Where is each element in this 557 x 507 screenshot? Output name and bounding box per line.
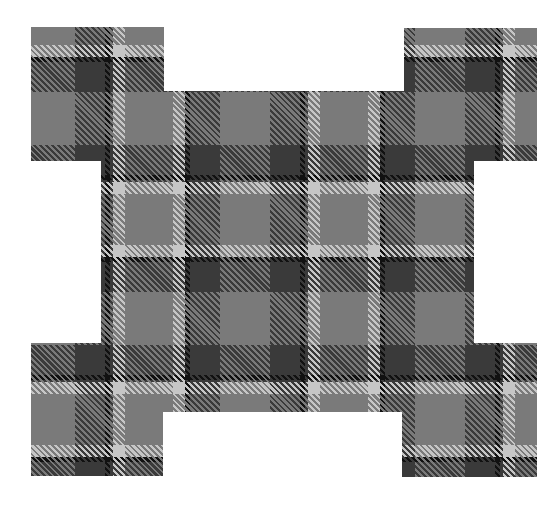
bottom-left-block [31,343,163,476]
tartan-pattern [402,343,537,477]
bottom-right-block [402,343,537,477]
tartan-shape [0,0,557,507]
tartan-pattern [31,343,163,476]
